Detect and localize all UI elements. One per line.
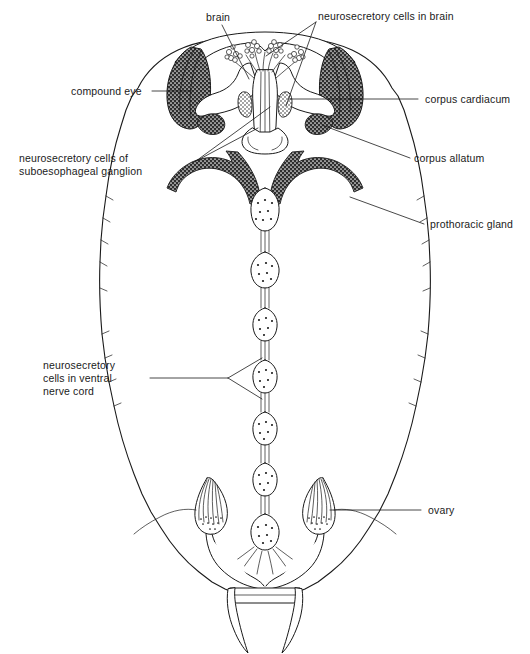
ganglion (253, 412, 277, 445)
label-neurosecretory-cells-in-brain: neurosecretory cells in brain (318, 10, 454, 22)
label-suboesophageal-line1: neurosecretory cells of (19, 152, 128, 164)
label-ventral-cord-line1: neurosecretory (43, 359, 116, 371)
label-ventral-cord-line3: nerve cord (43, 385, 94, 397)
label-compound-eye: compound eye (71, 85, 142, 97)
label-suboesophageal-line2: suboesophageal ganglion (19, 165, 142, 177)
label-prothoracic-gland: prothoracic gland (430, 218, 513, 230)
label-brain: brain (206, 11, 230, 23)
figure-canvas: brain neurosecretory cells in brain comp… (0, 0, 530, 654)
terminal-segment (228, 588, 302, 603)
label-corpus-cardiacum: corpus cardiacum (425, 93, 510, 105)
label-ovary: ovary (428, 504, 455, 516)
label-corpus-allatum: corpus allatum (414, 152, 484, 164)
insect-endocrine-diagram: brain neurosecretory cells in brain comp… (0, 0, 530, 654)
ganglion (253, 360, 277, 393)
label-ventral-cord-line2: cells in ventral (43, 372, 112, 384)
ganglion (253, 308, 277, 341)
ganglion (253, 463, 277, 496)
suboesophageal-ganglion (242, 128, 288, 154)
ganglion (251, 188, 279, 231)
